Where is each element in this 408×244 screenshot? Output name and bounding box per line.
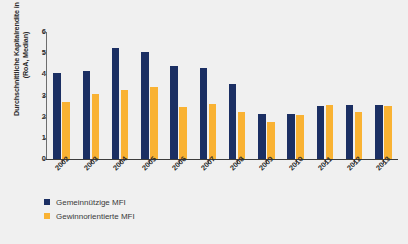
- y-axis-title-line1: Durchschnittliche Kapitalrendite in %: [12, 0, 21, 116]
- bar-group: [47, 32, 76, 159]
- y-axis-tick-mark: [43, 117, 46, 118]
- legend-swatch-icon: [44, 213, 50, 219]
- y-axis-tick-mark: [43, 32, 46, 33]
- bar-gemeinn-tzige-mfi: [317, 106, 325, 159]
- y-axis-title: Durchschnittliche Kapitalrendite in % (R…: [12, 0, 34, 130]
- legend-item: Gewinnorientierte MFI: [44, 210, 135, 222]
- y-axis-tick-mark: [43, 53, 46, 54]
- legend-item-label: Gemeinnützige MFI: [56, 198, 126, 207]
- bar-gemeinn-tzige-mfi: [346, 105, 354, 159]
- y-axis-tick-mark: [43, 138, 46, 139]
- bar-gemeinn-tzige-mfi: [375, 105, 383, 159]
- bar-gemeinn-tzige-mfi: [287, 114, 295, 160]
- y-axis-tick-mark: [43, 96, 46, 97]
- legend-swatch-icon: [44, 199, 50, 205]
- chart-container: Durchschnittliche Kapitalrendite in % (R…: [0, 0, 408, 244]
- chart-legend: Gemeinnützige MFI Gewinnorientierte MFI: [44, 196, 135, 224]
- bar-gemeinn-tzige-mfi: [53, 73, 61, 159]
- plot-area: 0123456 20022003200420052006200720082009…: [46, 32, 398, 160]
- legend-item: Gemeinnützige MFI: [44, 196, 135, 208]
- bar-gemeinn-tzige-mfi: [258, 114, 266, 160]
- y-axis-title-line2: (RoA, Median): [21, 0, 30, 130]
- legend-item-label: Gewinnorientierte MFI: [56, 212, 135, 221]
- y-axis-tick-mark: [43, 159, 46, 160]
- y-axis-tick-mark: [43, 74, 46, 75]
